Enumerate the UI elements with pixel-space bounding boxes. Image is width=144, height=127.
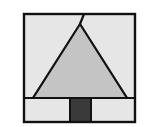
figure-canvas <box>0 0 144 127</box>
trunk-rect <box>70 98 91 122</box>
tree-diagram <box>0 0 144 127</box>
